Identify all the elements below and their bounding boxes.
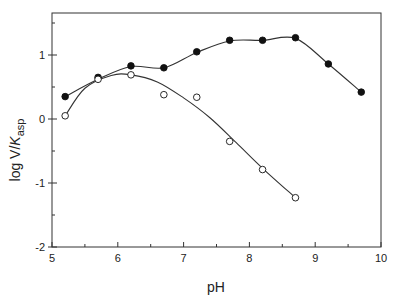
x-tick-label: 6 bbox=[115, 252, 121, 264]
x-tick-label: 7 bbox=[181, 252, 187, 264]
y-axis-title-subscript: asp bbox=[14, 119, 26, 137]
x-axis: 5678910 bbox=[49, 242, 387, 264]
y-tick-label: -2 bbox=[35, 241, 45, 253]
y-tick-label: 0 bbox=[39, 113, 45, 125]
filled-point bbox=[128, 63, 135, 70]
fit-curves bbox=[65, 37, 361, 198]
fit-curve-open bbox=[65, 74, 295, 198]
open-point bbox=[226, 138, 233, 145]
open-point bbox=[128, 72, 135, 79]
x-tick-label: 8 bbox=[246, 252, 252, 264]
x-tick-label: 10 bbox=[375, 252, 387, 264]
y-axis-title-main: log V/ bbox=[7, 146, 23, 182]
chart: 5678910 -2-101 pH log V/Kasp bbox=[0, 0, 396, 300]
filled-point bbox=[292, 34, 299, 41]
open-point bbox=[259, 166, 266, 173]
filled-point bbox=[62, 93, 69, 100]
filled-point bbox=[193, 49, 200, 56]
plot-border bbox=[52, 13, 381, 247]
filled-point bbox=[325, 61, 332, 68]
filled-point bbox=[226, 37, 233, 44]
data-points bbox=[62, 34, 365, 201]
fit-curve-filled bbox=[65, 37, 361, 97]
open-point bbox=[193, 94, 200, 101]
x-tick-label: 9 bbox=[312, 252, 318, 264]
y-tick-label: 1 bbox=[39, 49, 45, 61]
open-point bbox=[62, 113, 69, 120]
filled-point bbox=[161, 65, 168, 72]
open-point bbox=[292, 194, 299, 201]
open-point bbox=[161, 91, 168, 98]
x-tick-label: 5 bbox=[49, 252, 55, 264]
x-axis-title: pH bbox=[207, 279, 225, 295]
open-point bbox=[95, 76, 102, 83]
y-axis: -2-101 bbox=[35, 23, 57, 253]
y-tick-label: -1 bbox=[35, 177, 45, 189]
y-axis-title: log V/Kasp bbox=[7, 119, 26, 182]
filled-point bbox=[358, 89, 365, 96]
plot-frame bbox=[52, 13, 381, 247]
filled-point bbox=[259, 37, 266, 44]
